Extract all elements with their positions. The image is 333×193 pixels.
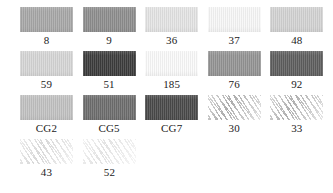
swatch-color-chip[interactable]: [83, 7, 136, 32]
swatch-color-chip[interactable]: [208, 95, 261, 120]
swatch-item-76[interactable]: 76: [208, 51, 271, 95]
swatch-label: CG7: [145, 120, 198, 137]
swatch-item-30[interactable]: 30: [208, 95, 271, 139]
swatch-color-chip[interactable]: [270, 95, 323, 120]
swatch-row: 59511857692: [0, 51, 333, 95]
swatch-color-chip[interactable]: [83, 139, 136, 164]
swatch-item-52[interactable]: 52: [83, 139, 146, 183]
swatch-row: CG2CG5CG73033: [0, 95, 333, 139]
swatch-item-cg7[interactable]: CG7: [145, 95, 208, 139]
swatch-item-185[interactable]: 185: [145, 51, 208, 95]
swatch-item-37[interactable]: 37: [208, 7, 271, 51]
swatch-color-chip[interactable]: [20, 51, 73, 76]
swatch-label: CG2: [20, 120, 73, 137]
swatch-label: 30: [208, 120, 261, 137]
swatch-label: 76: [208, 76, 261, 93]
swatch-label: 52: [83, 164, 136, 181]
swatch-label: 37: [208, 32, 261, 49]
swatch-label: CG5: [83, 120, 136, 137]
swatch-item-43[interactable]: 43: [20, 139, 83, 183]
swatch-item-33[interactable]: 33: [270, 95, 333, 139]
swatch-color-chip[interactable]: [270, 51, 323, 76]
swatch-item-9[interactable]: 9: [83, 7, 146, 51]
swatch-label: 48: [270, 32, 323, 49]
swatch-color-chip[interactable]: [145, 95, 198, 120]
swatch-item-36[interactable]: 36: [145, 7, 208, 51]
swatch-row: 89363748: [0, 7, 333, 51]
swatch-label: 8: [20, 32, 73, 49]
swatch-color-chip[interactable]: [20, 95, 73, 120]
swatch-label: 59: [20, 76, 73, 93]
swatch-label: 185: [145, 76, 198, 93]
swatch-color-chip[interactable]: [208, 7, 261, 32]
swatch-color-chip[interactable]: [270, 7, 323, 32]
swatch-color-chip[interactable]: [20, 139, 73, 164]
swatch-color-chip[interactable]: [20, 7, 73, 32]
swatch-label: 43: [20, 164, 73, 181]
swatch-item-59[interactable]: 59: [20, 51, 83, 95]
swatch-label: 92: [270, 76, 323, 93]
swatch-item-92[interactable]: 92: [270, 51, 333, 95]
swatch-item-cg5[interactable]: CG5: [83, 95, 146, 139]
swatch-label: 36: [145, 32, 198, 49]
swatch-item-48[interactable]: 48: [270, 7, 333, 51]
color-swatch-grid: 8936374859511857692CG2CG5CG730334352: [0, 0, 333, 193]
swatch-item-8[interactable]: 8: [20, 7, 83, 51]
swatch-color-chip[interactable]: [145, 51, 198, 76]
swatch-item-51[interactable]: 51: [83, 51, 146, 95]
swatch-label: 33: [270, 120, 323, 137]
swatch-color-chip[interactable]: [145, 7, 198, 32]
swatch-label: 9: [83, 32, 136, 49]
swatch-label: 51: [83, 76, 136, 93]
swatch-row: 4352: [0, 139, 333, 183]
swatch-color-chip[interactable]: [83, 95, 136, 120]
swatch-item-cg2[interactable]: CG2: [20, 95, 83, 139]
swatch-color-chip[interactable]: [83, 51, 136, 76]
swatch-color-chip[interactable]: [208, 51, 261, 76]
